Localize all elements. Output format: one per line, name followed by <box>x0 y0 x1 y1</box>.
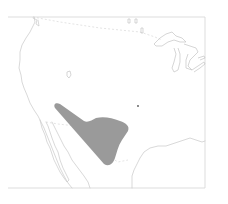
gulf-coastline <box>132 138 205 188</box>
great-lakes <box>154 32 205 72</box>
great-salt-lake <box>67 71 71 78</box>
lake-of-the-woods <box>141 28 143 33</box>
lake-ontario <box>198 56 205 60</box>
lake-huron <box>184 44 198 70</box>
lake-erie <box>192 62 205 72</box>
pacific-coastline <box>19 17 72 188</box>
range-area <box>54 103 128 165</box>
lake-michigan <box>172 48 180 72</box>
range-map <box>0 0 228 204</box>
northern-lake <box>128 19 137 23</box>
lake-superior <box>154 32 186 46</box>
record-marker <box>137 105 139 107</box>
